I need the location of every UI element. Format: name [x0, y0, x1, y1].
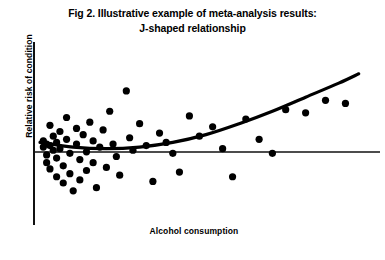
scatter-point — [302, 109, 309, 116]
scatter-point — [66, 170, 73, 177]
scatter-point — [116, 172, 123, 179]
pooled-dose-response-curve — [40, 74, 359, 149]
scatter-point — [53, 154, 60, 161]
scatter-point — [322, 97, 329, 104]
scatter-point — [53, 173, 60, 180]
scatter-point — [46, 165, 53, 172]
scatter-point — [176, 168, 183, 175]
scatter-point — [50, 133, 57, 140]
scatter-point — [60, 179, 67, 186]
scatter-point-group — [40, 87, 349, 194]
scatter-point — [63, 136, 70, 143]
scatter-point — [229, 173, 236, 180]
scatter-point — [103, 164, 110, 171]
scatter-point — [169, 150, 176, 157]
scatter-point — [76, 156, 83, 163]
scatter-point — [80, 131, 87, 138]
figure-container: Fig 2. Illustrative example of meta-anal… — [0, 0, 385, 260]
scatter-point — [43, 159, 50, 166]
scatter-point — [73, 125, 80, 132]
scatter-point — [269, 150, 276, 157]
scatter-plot-canvas — [0, 0, 385, 260]
scatter-point — [113, 153, 120, 160]
scatter-point — [256, 136, 263, 143]
scatter-point — [70, 187, 77, 194]
scatter-point — [56, 128, 63, 135]
scatter-point — [99, 126, 106, 133]
scatter-point — [90, 159, 97, 166]
scatter-point — [93, 184, 100, 191]
scatter-point — [90, 137, 97, 144]
scatter-point — [46, 122, 53, 129]
scatter-point — [63, 114, 70, 121]
scatter-point — [209, 123, 216, 130]
scatter-point — [50, 147, 57, 154]
scatter-point — [126, 134, 133, 141]
scatter-point — [342, 100, 349, 107]
scatter-point — [76, 176, 83, 183]
scatter-point — [186, 112, 193, 119]
scatter-point — [156, 129, 163, 136]
scatter-point — [123, 87, 130, 94]
scatter-point — [109, 140, 116, 147]
scatter-point — [86, 119, 93, 126]
scatter-point — [219, 145, 226, 152]
scatter-point — [66, 150, 73, 157]
scatter-point — [149, 178, 156, 185]
scatter-point — [83, 167, 90, 174]
scatter-point — [60, 162, 67, 169]
scatter-point — [106, 108, 113, 115]
scatter-point — [136, 120, 143, 127]
scatter-point — [43, 151, 50, 158]
